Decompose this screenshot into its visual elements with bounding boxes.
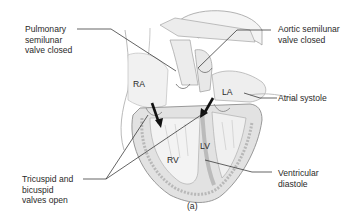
figure-caption: (a): [187, 201, 198, 211]
label-ventricular-diastole: Ventricular diastole: [278, 168, 319, 189]
label-pulmonary-semilunar-valve: Pulmonary semilunar valve closed: [25, 24, 72, 56]
label-av-valves-open: Tricuspid and bicuspid valves open: [22, 174, 73, 206]
chamber-label-rv: RV: [167, 155, 179, 165]
label-atrial-systole: Atrial systole: [278, 93, 327, 104]
chamber-label-la: LA: [222, 87, 233, 97]
chamber-label-lv: LV: [200, 141, 210, 151]
heart-diagram: RA LA RV LV Pulmonary semilunar valve cl…: [0, 0, 363, 222]
chamber-label-ra: RA: [133, 79, 145, 89]
label-aortic-semilunar-valve: Aortic semilunar valve closed: [278, 24, 340, 45]
